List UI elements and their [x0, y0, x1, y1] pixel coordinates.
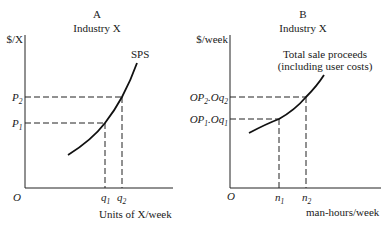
panel-b-curve-label-line1: Total sale proceeds — [283, 48, 367, 60]
panel-b-origin: O — [227, 190, 235, 202]
panel-b-x-axis-label: man-hours/week — [306, 206, 380, 218]
panel-b-op2-label: OP2.Oq2 — [190, 91, 229, 106]
panel-b-n1-label: n1 — [275, 191, 284, 206]
panel-a-title: Industry X — [73, 22, 120, 34]
panel-a-x-axis-label: Units of X/week — [99, 208, 172, 220]
panel-a-y-axis-label: $/X — [7, 33, 24, 45]
panel-a: A Industry X $/X O SPS P2 P1 q1 q2 Units… — [7, 8, 174, 220]
panel-a-q1-label: q1 — [101, 191, 110, 206]
panel-b-n2-label: n2 — [302, 191, 312, 206]
panel-a-curve-label: SPS — [131, 48, 149, 60]
panel-b-op1-label: OP1.Oq1 — [190, 113, 228, 128]
panel-a-q2-label: q2 — [117, 191, 127, 206]
panel-a-p1-label: P1 — [11, 117, 22, 132]
diagram: A Industry X $/X O SPS P2 P1 q1 q2 Units… — [0, 0, 389, 226]
panel-a-sps-curve — [68, 63, 137, 155]
panel-a-p2-label: P2 — [11, 91, 23, 106]
panel-b: B Industry X $/week O Total sale proceed… — [190, 8, 381, 218]
panel-b-title: Industry X — [279, 22, 326, 34]
panel-a-origin: O — [13, 191, 21, 203]
panel-b-curve-label-line2: (including user costs) — [278, 60, 373, 73]
panel-b-y-axis-label: $/week — [196, 33, 228, 45]
panel-b-letter: B — [299, 8, 306, 20]
panel-b-proceeds-curve — [249, 75, 324, 133]
panel-a-letter: A — [93, 8, 101, 20]
